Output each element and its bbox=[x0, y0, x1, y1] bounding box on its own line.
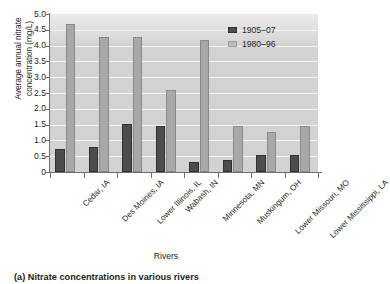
bar bbox=[166, 90, 176, 172]
y-tick-label: 3.5 bbox=[14, 57, 46, 66]
bar bbox=[290, 155, 300, 172]
y-tick-label: 4.5 bbox=[14, 25, 46, 34]
bar bbox=[156, 126, 166, 172]
bar bbox=[89, 147, 99, 172]
y-tick-mark bbox=[45, 61, 50, 62]
x-tick-mark bbox=[117, 173, 118, 178]
y-tick-mark bbox=[45, 93, 50, 94]
y-axis-ticks: 5.04.54.03.53.02.52.01.51.00.50 bbox=[14, 9, 46, 175]
y-tick-mark bbox=[45, 14, 50, 15]
y-tick-label: 2.0 bbox=[14, 104, 46, 113]
bar bbox=[267, 132, 277, 172]
legend: 1905–07 1980–96 bbox=[228, 24, 275, 52]
figure-caption: (a) Nitrate concentrations in various ri… bbox=[14, 272, 199, 282]
bar bbox=[133, 37, 143, 172]
bar bbox=[55, 149, 65, 172]
x-tick-mark bbox=[285, 173, 286, 178]
plot-area bbox=[50, 14, 318, 172]
legend-item-1980-96: 1980–96 bbox=[228, 38, 275, 50]
y-tick-label: 5.0 bbox=[14, 10, 46, 19]
gridline bbox=[50, 61, 318, 62]
bar bbox=[66, 24, 76, 172]
gridline bbox=[50, 30, 318, 31]
bar bbox=[189, 162, 199, 172]
bar bbox=[233, 126, 243, 172]
x-tick-mark bbox=[184, 173, 185, 178]
bar bbox=[300, 126, 310, 172]
y-tick-label: 1.5 bbox=[14, 120, 46, 129]
y-tick-label: 0 bbox=[14, 168, 46, 177]
x-axis-tick-labels: Cedar, IADes Moines, IALower Illinois, I… bbox=[0, 178, 332, 248]
y-tick-label: 0.5 bbox=[14, 152, 46, 161]
x-axis-title: Rivers bbox=[0, 251, 332, 261]
y-tick-label: 4.0 bbox=[14, 41, 46, 50]
y-tick-mark bbox=[45, 125, 50, 126]
legend-label-1980-96: 1980–96 bbox=[242, 38, 275, 50]
y-tick-label: 1.0 bbox=[14, 136, 46, 145]
x-tick-mark bbox=[84, 173, 85, 178]
gridline bbox=[50, 46, 318, 47]
legend-label-1905-07: 1905–07 bbox=[242, 24, 275, 36]
y-tick-label: 2.5 bbox=[14, 89, 46, 98]
y-tick-mark bbox=[45, 109, 50, 110]
gridline bbox=[50, 93, 318, 94]
x-tick-mark bbox=[318, 173, 319, 178]
x-tick-mark bbox=[218, 173, 219, 178]
x-tick-label: Cedar, IA bbox=[81, 178, 112, 209]
gridline bbox=[50, 140, 318, 141]
x-tick-mark bbox=[251, 173, 252, 178]
gridline bbox=[50, 77, 318, 78]
bar bbox=[99, 37, 109, 172]
bar bbox=[200, 40, 210, 172]
gridline bbox=[50, 109, 318, 110]
bar bbox=[223, 160, 233, 172]
y-tick-mark bbox=[45, 156, 50, 157]
gridline bbox=[50, 125, 318, 126]
y-tick-mark bbox=[45, 30, 50, 31]
legend-swatch-icon-1980-96 bbox=[228, 41, 237, 47]
y-tick-mark bbox=[45, 140, 50, 141]
y-tick-mark bbox=[45, 77, 50, 78]
y-tick-mark bbox=[45, 46, 50, 47]
y-tick-label: 3.0 bbox=[14, 73, 46, 82]
legend-item-1905-07: 1905–07 bbox=[228, 24, 275, 36]
x-tick-mark bbox=[50, 173, 51, 178]
bar bbox=[122, 124, 132, 172]
legend-swatch-icon-1905-07 bbox=[228, 27, 237, 33]
x-tick-mark bbox=[151, 173, 152, 178]
bar bbox=[256, 155, 266, 172]
